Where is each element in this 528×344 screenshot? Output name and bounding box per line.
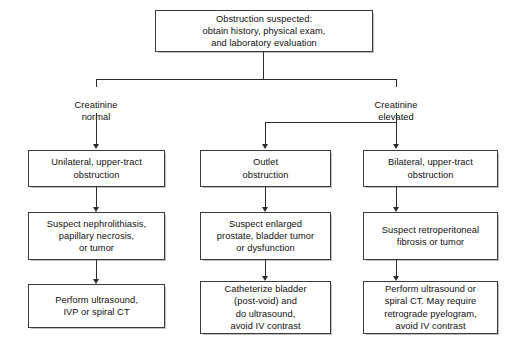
arrowhead-elevated-to-bilateral bbox=[393, 144, 399, 149]
connector-right-diagnosis-to-suspect bbox=[396, 187, 397, 207]
node-middle-suspect-label: Suspect enlarged prostate, bladder tumor… bbox=[205, 218, 326, 255]
node-right-diagnosis-label: Bilateral, upper-tract obstruction bbox=[368, 156, 493, 180]
connector-main-split-bar bbox=[96, 79, 396, 80]
connector-root-stem bbox=[263, 52, 264, 79]
connector-elevated-stem bbox=[396, 113, 397, 122]
node-middle-diagnosis: Outlet obstruction bbox=[200, 150, 331, 187]
connector-middle-diagnosis-to-suspect bbox=[265, 187, 266, 207]
node-left-suspect: Suspect nephrolithiasis, papillary necro… bbox=[28, 212, 165, 260]
node-right-action-label: Perform ultrasound or spiral CT. May req… bbox=[368, 283, 493, 332]
connector-right-suspect-to-action bbox=[396, 260, 397, 276]
node-left-action-label: Perform ultrasound, IVP or spiral CT bbox=[33, 294, 160, 318]
node-right-suspect-label: Suspect retroperitoneal fibrosis or tumo… bbox=[368, 224, 493, 248]
node-root: Obstruction suspected: obtain history, p… bbox=[155, 10, 373, 52]
connector-elevated-to-bilateral bbox=[396, 122, 397, 144]
connector-left-to-unilateral bbox=[96, 113, 97, 144]
connector-elevated-to-outlet bbox=[265, 122, 266, 144]
node-root-label: Obstruction suspected: obtain history, p… bbox=[160, 13, 368, 50]
connector-left-riser bbox=[96, 79, 97, 87]
arrowhead-elevated-to-outlet bbox=[262, 144, 268, 149]
node-middle-diagnosis-label: Outlet obstruction bbox=[205, 156, 326, 180]
node-left-diagnosis: Unilateral, upper-tract obstruction bbox=[28, 150, 165, 187]
node-left-action: Perform ultrasound, IVP or spiral CT bbox=[28, 284, 165, 328]
node-left-diagnosis-label: Unilateral, upper-tract obstruction bbox=[33, 156, 160, 180]
connector-middle-suspect-to-action bbox=[265, 260, 266, 276]
connector-left-diagnosis-to-suspect bbox=[96, 187, 97, 207]
node-right-suspect: Suspect retroperitoneal fibrosis or tumo… bbox=[363, 212, 498, 260]
connector-left-suspect-to-action bbox=[96, 260, 97, 279]
node-middle-action: Catheterize bladder (post-void) and do u… bbox=[200, 281, 331, 334]
node-right-diagnosis: Bilateral, upper-tract obstruction bbox=[363, 150, 498, 187]
flowchart-canvas: Obstruction suspected: obtain history, p… bbox=[0, 0, 528, 344]
node-middle-action-label: Catheterize bladder (post-void) and do u… bbox=[205, 283, 326, 332]
node-right-action: Perform ultrasound or spiral CT. May req… bbox=[363, 281, 498, 334]
connector-right-riser bbox=[396, 79, 397, 87]
connector-elevated-split-bar bbox=[265, 122, 397, 123]
node-left-suspect-label: Suspect nephrolithiasis, papillary necro… bbox=[33, 218, 160, 255]
node-middle-suspect: Suspect enlarged prostate, bladder tumor… bbox=[200, 212, 331, 260]
arrowhead-left-to-unilateral bbox=[93, 144, 99, 149]
